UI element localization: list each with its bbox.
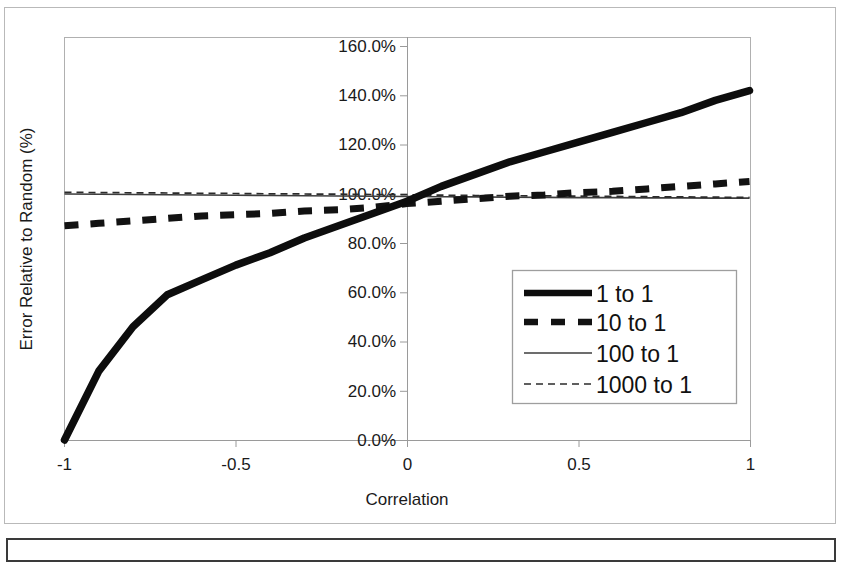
x-tick-label-1: 1 bbox=[746, 455, 755, 474]
x-tick-label-0p5: 0.5 bbox=[567, 455, 591, 474]
x-tick-label-neg1: -1 bbox=[57, 455, 72, 474]
y-tick-label-20: 20.0% bbox=[348, 382, 396, 401]
legend-label-10-to-1: 10 to 1 bbox=[596, 310, 666, 336]
y-tick-label-0: 0.0% bbox=[357, 431, 396, 450]
x-tick-marks bbox=[65, 440, 751, 447]
x-tick-label-neg0p5: -0.5 bbox=[221, 455, 250, 474]
legend-label-100-to-1: 100 to 1 bbox=[596, 341, 679, 367]
y-axis-title: Error Relative to Random (%) bbox=[17, 128, 36, 351]
y-tick-label-160: 160.0% bbox=[338, 37, 396, 56]
legend[interactable]: 1 to 1 10 to 1 100 to 1 1000 to 1 bbox=[513, 271, 737, 404]
x-axis-title: Correlation bbox=[365, 490, 448, 509]
y-tick-label-40: 40.0% bbox=[348, 332, 396, 351]
y-tick-label-80: 80.0% bbox=[348, 234, 396, 253]
chart-canvas: 160.0% 140.0% 120.0% 100.0% 80.0% 60.0% … bbox=[0, 0, 842, 530]
y-tick-label-140: 140.0% bbox=[338, 86, 396, 105]
y-tick-label-120: 120.0% bbox=[338, 135, 396, 154]
legend-label-1-to-1: 1 to 1 bbox=[596, 281, 654, 307]
y-tick-marks bbox=[400, 47, 407, 392]
x-tick-label-0: 0 bbox=[403, 455, 412, 474]
caption-box bbox=[6, 538, 836, 562]
legend-label-1000-to-1: 1000 to 1 bbox=[596, 372, 692, 398]
y-tick-label-60: 60.0% bbox=[348, 283, 396, 302]
